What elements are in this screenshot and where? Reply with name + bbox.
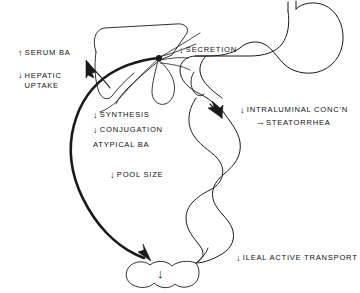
common-bile-duct xyxy=(160,63,190,70)
label-serum-ba: ↑SERUM BA xyxy=(18,48,71,58)
label-pool-size-text: POOL SIZE xyxy=(117,170,164,179)
arrow-right-icon: → xyxy=(256,118,266,128)
label-hepatic-uptake-text: HEPATIC UPTAKE xyxy=(25,71,62,90)
arrow-down-icon: ↓ xyxy=(236,254,243,264)
label-hepatic-uptake-line1: HEPATIC xyxy=(25,71,62,81)
label-synthesis-text: SYNTHESIS xyxy=(100,110,150,119)
arrow-down-icon: ↓ xyxy=(18,71,25,81)
gallbladder-outline xyxy=(152,60,175,104)
label-steatorrhea-text: STEATORRHEA xyxy=(266,118,331,127)
liver-lower-lobe xyxy=(95,52,134,99)
label-secretion-text: SECRETION xyxy=(186,45,237,54)
arrow-down-icon: ↓ xyxy=(93,111,100,121)
label-hepatic-uptake-line2: UPTAKE xyxy=(25,81,62,91)
label-ileal-active-transport-text: ILEAL ACTIVE TRANSPORT xyxy=(243,253,358,262)
portal-circulation-curve xyxy=(71,58,159,258)
label-colon-excretion-arrow: ↓ xyxy=(157,268,166,279)
esophagus xyxy=(288,1,296,11)
label-pool-size: ↓POOL SIZE xyxy=(110,170,163,180)
arrow-down-icon: ↓ xyxy=(93,126,100,136)
label-ileal-active-transport: ↓ILEAL ACTIVE TRANSPORT xyxy=(236,253,358,263)
label-conjugation-text: CONJUGATION xyxy=(100,125,163,134)
arrow-down-icon: ↓ xyxy=(179,46,186,56)
label-synthesis: ↓SYNTHESIS xyxy=(93,110,150,120)
arrow-down-icon: ↓ xyxy=(240,106,247,116)
arrow-down-icon: ↓ xyxy=(157,269,166,279)
label-conjugation: ↓CONJUGATION xyxy=(93,125,163,135)
label-serum-ba-text: SERUM BA xyxy=(25,48,71,57)
label-atypical-ba-text: ATYPICAL BA xyxy=(93,140,149,149)
label-secretion: ↓SECRETION xyxy=(179,45,237,55)
arrow-down-icon: ↓ xyxy=(110,171,117,181)
small-intestine-right-wall xyxy=(198,110,240,263)
enterohepatic-circulation-figure: ↑SERUM BA ↓ HEPATIC UPTAKE ↓SECRETION ↓S… xyxy=(0,0,360,293)
label-steatorrhea: →STEATORRHEA xyxy=(256,118,331,128)
arrow-up-icon: ↑ xyxy=(18,49,25,59)
label-hepatic-uptake: ↓ HEPATIC UPTAKE xyxy=(18,71,62,90)
liver-outline xyxy=(94,24,187,60)
liver-internal-line xyxy=(100,58,159,112)
label-atypical-ba: ATYPICAL BA xyxy=(93,140,149,150)
duodenum-loop-inner xyxy=(200,56,222,98)
stomach-outline xyxy=(240,3,343,73)
label-intraluminal-text: INTRALUMINAL CONC'N xyxy=(247,105,348,114)
label-intraluminal-concentration: ↓INTRALUMINAL CONC'N xyxy=(240,105,348,115)
